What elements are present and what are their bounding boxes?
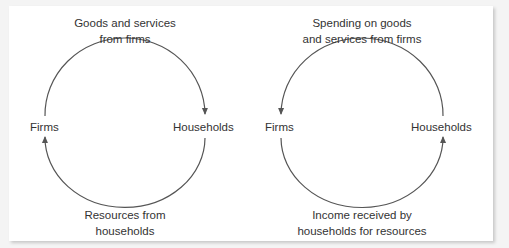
top-arc-goods-arrow	[45, 38, 205, 116]
bottom-arc-income-arrow	[281, 137, 443, 208]
right-top-label: Spending on goods and services from firm…	[292, 15, 432, 47]
bottom-arc-resources-arrow	[45, 137, 205, 207]
left-bottom-label: Resources from households	[65, 207, 185, 239]
left-firms-label: Firms	[30, 119, 59, 135]
top-arc-spending-arrow	[281, 38, 443, 116]
right-firms-label: Firms	[265, 119, 294, 135]
right-households-label: Households	[411, 119, 472, 135]
left-top-label: Goods and services from firms	[65, 15, 185, 47]
right-bottom-label: Income received by households for resour…	[287, 207, 437, 239]
left-households-label: Households	[173, 119, 234, 135]
